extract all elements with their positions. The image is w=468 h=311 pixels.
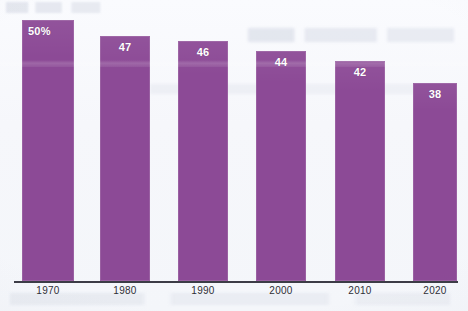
bar-slot-1980: 47 [100, 20, 150, 281]
bar-2000[interactable]: 44 [256, 51, 306, 281]
bar-value-2020: 38 [413, 88, 457, 100]
bar-value-2010: 42 [335, 66, 385, 78]
x-axis-line [14, 281, 458, 283]
tick-label-2020: 2020 [413, 285, 457, 296]
bar-value-1970: 50% [22, 25, 74, 37]
bar-slot-1990: 46 [178, 20, 228, 281]
bar-value-2000: 44 [256, 56, 306, 68]
plot-area: 50% 47 46 44 42 38 [0, 0, 468, 281]
bar-slot-2000: 44 [256, 20, 306, 281]
tick-label-2000: 2000 [256, 285, 306, 296]
tick-label-2010: 2010 [335, 285, 385, 296]
bar-1990[interactable]: 46 [178, 41, 228, 281]
bar-1970[interactable]: 50% [22, 20, 74, 281]
bar-2020[interactable]: 38 [413, 83, 457, 281]
bar-1980[interactable]: 47 [100, 36, 150, 281]
bar-chart: 50% 47 46 44 42 38 [0, 0, 468, 311]
bar-2010[interactable]: 42 [335, 61, 385, 281]
tick-label-1970: 1970 [22, 285, 74, 296]
bar-value-1990: 46 [178, 46, 228, 58]
tick-label-1980: 1980 [100, 285, 150, 296]
bar-slot-2010: 42 [335, 20, 385, 281]
bar-slot-1970: 50% [22, 20, 74, 281]
x-axis-tick-labels: 1970 1980 1990 2000 2010 2020 [0, 285, 468, 305]
bar-slot-2020: 38 [413, 20, 457, 281]
bar-value-1980: 47 [100, 41, 150, 53]
tick-label-1990: 1990 [178, 285, 228, 296]
